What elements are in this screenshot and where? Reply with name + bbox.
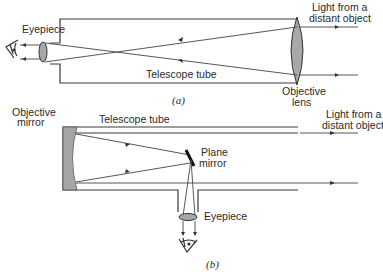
eyepiece-lens-a [39,42,47,62]
arrow-head [330,131,335,135]
light-label-a-2: distant object [309,12,371,24]
caption-a: (a) [172,94,185,107]
telescope-tube-label-b: Telescope tube [99,113,170,125]
caption-b: (b) [206,258,219,271]
arrow-head [193,232,197,236]
objective-mirror [63,127,77,190]
panel-a-refracting-telescope: Eyepiece Telescope tube Objective lens L… [6,1,371,108]
arrow-head [178,37,183,42]
down-ray-1 [183,160,191,216]
panel-b-reflecting-telescope: Objective mirror Telescope tube Plane mi… [12,106,383,271]
eye-icon [6,40,18,58]
arrow-head [125,169,130,173]
objective-lens-label-2: lens [292,96,311,108]
arrow-head [22,43,26,47]
eyepiece-lens-b [179,214,197,221]
eyepiece-label-a: Eyepiece [22,23,65,35]
arrow-head [22,57,26,61]
reflected-ray-1 [76,134,190,155]
arrow-head [330,181,335,185]
eyepiece-label-b: Eyepiece [204,210,247,222]
objective-mirror-label-2: mirror [17,116,45,128]
arrow-head [181,232,185,236]
light-label-b-2: distant object [322,119,383,131]
arrow-head [335,73,339,77]
telescope-tube-label-a: Telescope tube [146,68,217,80]
telescope-tube-b [63,127,298,212]
plane-mirror-label-2: mirror [199,157,227,169]
arrow-head [335,25,339,29]
reflected-ray-2 [76,163,190,182]
down-ray-2 [191,160,195,216]
converging-ray-1 [45,27,297,62]
telescope-diagram: Eyepiece Telescope tube Objective lens L… [0,0,383,275]
eye-icon [179,238,197,252]
